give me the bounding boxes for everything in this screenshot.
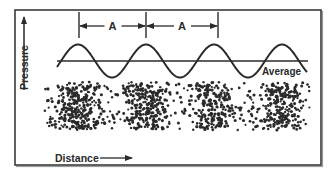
diagram-canvas: Pressure AA Average Distance [0, 0, 335, 179]
distance-axis-label: Distance [55, 152, 99, 164]
pressure-axis-label: Pressure [18, 45, 30, 90]
sound-wave-diagram: Pressure AA Average Distance [0, 0, 335, 179]
average-label: Average [262, 66, 302, 77]
wavelength-label: A [178, 20, 186, 32]
wavelength-label: A [109, 20, 117, 32]
